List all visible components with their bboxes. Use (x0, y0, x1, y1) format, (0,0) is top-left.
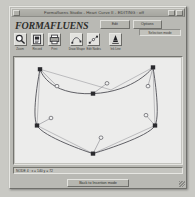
control-handle[interactable] (105, 82, 109, 86)
control-handle[interactable] (146, 84, 150, 88)
document-icon (32, 34, 43, 45)
footer-bar: Back to Insertion mode (10, 177, 186, 188)
drawing-canvas[interactable] (15, 58, 181, 163)
nodes-icon (88, 34, 99, 45)
title-bar[interactable]: Formafluens Studio - Heart Curve II - ED… (11, 8, 185, 17)
tool-ink-line[interactable]: Ink Line (108, 33, 123, 52)
tool-draw-shape-button[interactable] (70, 33, 83, 46)
tool-print[interactable]: Print (47, 33, 62, 52)
tool-draw-shape[interactable]: Draw Shape (69, 33, 84, 52)
tool-zoom[interactable]: Zoom (13, 33, 28, 52)
printer-icon (49, 34, 60, 45)
control-handle[interactable] (144, 113, 148, 117)
tool-print-button[interactable] (48, 33, 61, 46)
application-window: Formafluens Studio - Heart Curve II - ED… (9, 6, 187, 189)
tool-zoom-label: Zoom (17, 47, 25, 52)
window-maximize-button[interactable] (176, 10, 183, 16)
magnifier-icon (15, 34, 26, 45)
resize-grip[interactable] (179, 181, 185, 187)
pen-icon (110, 34, 121, 45)
tool-edit-nodes-label: Edit Nodes (86, 47, 100, 52)
heart-bezier-path[interactable] (35, 67, 157, 153)
mode-button-group: Edit Options (100, 20, 162, 29)
control-handle[interactable] (49, 116, 53, 120)
anchor-point[interactable] (91, 152, 95, 156)
canvas-frame (13, 56, 183, 165)
back-to-insertion-mode-button[interactable]: Back to Insertion mode (67, 179, 129, 187)
tool-record-button[interactable] (31, 33, 44, 46)
toolbar: Zoom Record (13, 33, 184, 55)
tool-ink-line-label: Ink Line (110, 47, 120, 52)
tool-record-label: Record (33, 47, 42, 52)
app-logo: FORMAFLUENS (15, 20, 88, 31)
tool-edit-nodes[interactable]: Edit Nodes (86, 33, 101, 52)
tool-edit-nodes-button[interactable] (87, 33, 100, 46)
tool-ink-line-button[interactable] (109, 33, 122, 46)
tool-draw-shape-label: Draw Shape (68, 47, 84, 52)
anchor-points-group[interactable] (35, 65, 157, 155)
anchor-point[interactable] (153, 123, 157, 127)
tool-zoom-button[interactable] (14, 33, 27, 46)
window-title: Formafluens Studio - Heart Curve II - ED… (20, 10, 168, 16)
control-handle[interactable] (99, 136, 103, 140)
control-handle[interactable] (55, 84, 59, 88)
tangent-guide (93, 126, 155, 154)
coordinate-readout: NODE 4 : x = 140 y = 72 (13, 167, 183, 174)
anchor-point[interactable] (38, 67, 42, 71)
tangent-guide (37, 126, 93, 154)
tool-print-label: Print (51, 47, 57, 52)
desktop-background: Formafluens Studio - Heart Curve II - ED… (0, 0, 195, 197)
anchor-point[interactable] (91, 92, 95, 96)
header-band: FORMAFLUENS Edit Options Selection mode (12, 18, 184, 32)
window-menu-button[interactable] (13, 10, 20, 16)
mode-button-options[interactable]: Options (133, 20, 163, 29)
window-minimize-button[interactable] (168, 10, 175, 16)
tool-record[interactable]: Record (30, 33, 45, 52)
anchor-point[interactable] (151, 65, 155, 69)
canvas-svg[interactable] (15, 58, 181, 163)
curve-icon (71, 34, 82, 45)
anchor-point[interactable] (35, 123, 39, 127)
mode-button-edit[interactable]: Edit (100, 20, 130, 29)
